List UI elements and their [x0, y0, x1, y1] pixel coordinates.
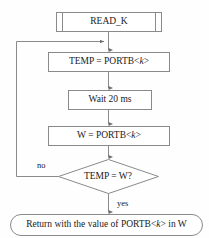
- node-wait-shape: [69, 91, 152, 110]
- node-return-shape: [11, 215, 203, 236]
- flowchart-canvas: [0, 0, 209, 238]
- node-w-assign-shape: [49, 127, 170, 146]
- flowchart-diagram: READ_K TEMP = PORTB<k> Wait 20 ms W = PO…: [0, 0, 209, 238]
- node-read-k-shape: [57, 13, 162, 32]
- node-temp-assign-shape: [49, 53, 170, 72]
- node-compare-shape: [59, 160, 159, 194]
